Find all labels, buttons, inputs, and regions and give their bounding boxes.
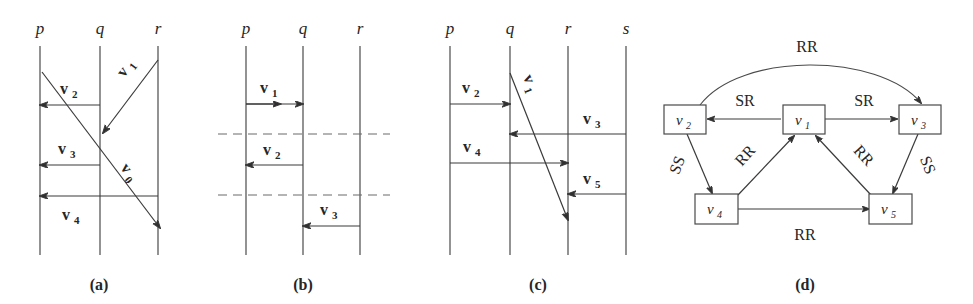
panel-caption-a: (a) <box>90 276 109 294</box>
svg-text:v: v <box>795 112 802 128</box>
svg-text:v: v <box>463 138 471 155</box>
node-box-v2[interactable] <box>664 105 706 134</box>
svg-text:3: 3 <box>595 118 601 130</box>
message-label-v4: v 4 <box>62 206 80 226</box>
svg-text:2: 2 <box>474 87 480 99</box>
svg-text:v: v <box>58 140 66 157</box>
svg-text:v: v <box>62 206 70 223</box>
svg-text:2: 2 <box>72 88 78 100</box>
edge-arc-rr-v2-v3 <box>700 65 921 105</box>
panel-caption-d: (d) <box>795 276 815 294</box>
svg-text:v: v <box>118 160 136 177</box>
edge-label-rr-right: RR <box>851 142 878 169</box>
svg-text:4: 4 <box>74 214 80 226</box>
edge-label-sr-left: SR <box>735 92 755 109</box>
message-label-v3: v 3 <box>320 201 338 221</box>
svg-text:v: v <box>260 79 268 96</box>
edge-label-ss-left: SS <box>666 154 688 177</box>
edge-label-sr-right: SR <box>854 92 874 109</box>
process-label-r: r <box>155 19 162 38</box>
svg-text:v: v <box>263 141 271 158</box>
panel-d: v 2 v 1 v 3 v 4 v 5 RR SR SR SS <box>664 38 941 294</box>
svg-text:1: 1 <box>272 87 278 99</box>
svg-text:1: 1 <box>522 86 535 96</box>
svg-text:v: v <box>881 201 888 217</box>
svg-text:v: v <box>320 201 328 218</box>
svg-text:v: v <box>462 79 470 96</box>
message-label-v0: v 0 <box>115 160 142 186</box>
edge-label-arc-rr: RR <box>796 38 818 55</box>
svg-text:v: v <box>676 112 683 128</box>
process-label-p: p <box>35 19 45 38</box>
edge-label-rr-left: RR <box>731 141 758 168</box>
process-label-p: p <box>241 19 251 38</box>
svg-text:1: 1 <box>805 120 810 131</box>
svg-text:1: 1 <box>126 60 139 72</box>
svg-text:3: 3 <box>332 209 338 221</box>
svg-text:3: 3 <box>70 148 76 160</box>
svg-text:v: v <box>583 110 591 127</box>
message-arrow-v1 <box>103 60 158 133</box>
message-label-v1: v 1 <box>517 72 542 96</box>
process-label-s: s <box>623 19 630 38</box>
panel-a: p q r v 2 v 3 v 4 v 1 v 0 (a) <box>35 19 162 294</box>
node-box-v1[interactable] <box>783 105 825 134</box>
message-label-v2: v 2 <box>60 80 78 100</box>
svg-text:4: 4 <box>717 209 722 220</box>
svg-text:4: 4 <box>475 146 481 158</box>
svg-text:v: v <box>60 80 68 97</box>
edge-ss-v2-v4 <box>687 134 712 193</box>
process-label-r: r <box>565 19 572 38</box>
svg-text:v: v <box>911 112 918 128</box>
svg-text:5: 5 <box>595 178 601 190</box>
message-arrow-v1 <box>510 73 568 220</box>
message-label-v1: v 1 <box>113 56 140 82</box>
message-label-v4: v 4 <box>463 138 481 158</box>
message-label-v3: v 3 <box>583 110 601 130</box>
svg-text:v: v <box>583 170 591 187</box>
panel-caption-b: (b) <box>293 276 313 294</box>
message-label-v3: v 3 <box>58 140 76 160</box>
figure-root: p q r v 2 v 3 v 4 v 1 v 0 (a) <box>0 0 973 304</box>
process-label-q: q <box>299 19 308 38</box>
process-label-p: p <box>445 19 455 38</box>
message-label-v1: v 1 <box>260 79 278 99</box>
edge-ss-v3-v5 <box>893 134 918 193</box>
process-label-r: r <box>357 19 364 38</box>
svg-text:3: 3 <box>920 120 926 131</box>
panel-b: p q r v 1 v 2 v 3 (b) <box>218 19 390 294</box>
edge-label-ss-right: SS <box>917 154 939 177</box>
svg-text:v: v <box>707 201 714 217</box>
process-label-q: q <box>506 19 515 38</box>
message-label-v2: v 2 <box>263 141 281 161</box>
message-label-v5: v 5 <box>583 170 601 190</box>
edge-label-rr-bottom: RR <box>794 226 816 243</box>
message-label-v2: v 2 <box>462 79 480 99</box>
figure-canvas: p q r v 2 v 3 v 4 v 1 v 0 (a) <box>0 0 973 304</box>
svg-text:5: 5 <box>891 209 896 220</box>
svg-text:2: 2 <box>686 120 691 131</box>
svg-text:0: 0 <box>122 174 135 186</box>
panel-caption-c: (c) <box>529 276 547 294</box>
process-label-q: q <box>96 19 105 38</box>
panel-c: p q r s v 2 v 3 v 4 v 5 v 1 <box>445 19 630 294</box>
node-box-v3[interactable] <box>899 105 941 134</box>
svg-text:v: v <box>520 72 539 86</box>
svg-text:2: 2 <box>275 149 281 161</box>
